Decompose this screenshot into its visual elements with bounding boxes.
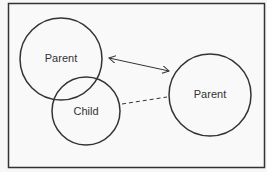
node-label: Parent xyxy=(194,88,226,100)
diagram-frame xyxy=(9,4,265,168)
node-label: Parent xyxy=(45,52,77,64)
diagram-canvas: Parent Child Parent xyxy=(0,0,267,172)
node-label: Child xyxy=(73,105,98,117)
